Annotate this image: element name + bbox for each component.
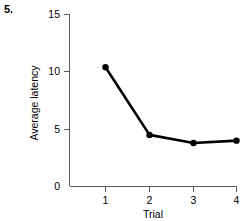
y-tick-label-5: 5	[54, 123, 60, 135]
x-tick-label-1: 1	[103, 194, 109, 206]
data-point-trial-2	[146, 132, 152, 138]
y-tick-label-15: 15	[48, 8, 60, 20]
y-tick-label-0: 0	[54, 180, 60, 192]
figure-container: 5. 15 10 5 0 1 2 3 4 Trial Average laten…	[0, 0, 249, 221]
x-axis-title: Trial	[143, 208, 163, 220]
x-tick-label-4: 4	[234, 194, 240, 206]
data-point-trial-3	[190, 140, 196, 146]
x-tick-label-3: 3	[191, 194, 197, 206]
y-tick-label-10: 10	[48, 65, 60, 77]
data-point-trial-1	[102, 64, 108, 70]
series-line-average-latency	[106, 67, 237, 143]
x-tick-label-2: 2	[147, 194, 153, 206]
y-axis-title: Average latency	[28, 65, 40, 141]
series-markers	[102, 64, 239, 146]
line-chart: 15 10 5 0 1 2 3 4 Trial Average latency	[0, 0, 249, 221]
data-point-trial-4	[233, 137, 239, 143]
